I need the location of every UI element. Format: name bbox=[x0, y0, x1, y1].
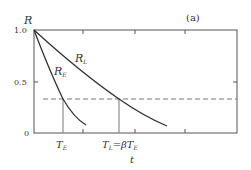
tl-label: TL=βTE bbox=[102, 139, 139, 151]
y-tick-0: 0 bbox=[24, 129, 29, 138]
te-label: TE bbox=[56, 139, 68, 151]
rl-label: RL bbox=[74, 52, 87, 65]
panel-label: (a) bbox=[186, 12, 200, 23]
y-tick-1: 1.0 bbox=[14, 26, 27, 35]
y-tick-05: 0.5 bbox=[14, 78, 27, 87]
re-label: RE bbox=[53, 65, 67, 78]
bottom-ticks bbox=[83, 129, 185, 133]
top-ticks bbox=[83, 30, 185, 34]
plot-frame bbox=[34, 30, 237, 133]
decay-chart: (a) R 1.0 0.5 0 RE RL TE TL=βTE t bbox=[0, 0, 251, 170]
x-axis-label: t bbox=[130, 154, 135, 165]
